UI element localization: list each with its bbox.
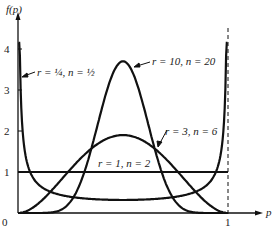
- label-r-quarter: r = ¼, n = ½: [37, 66, 95, 78]
- y-tick-1: 1: [4, 166, 10, 178]
- label-r-10: r = 10, n = 20: [152, 55, 216, 67]
- y-tick-2: 2: [4, 125, 10, 137]
- origin-label: 0: [2, 216, 8, 228]
- label-r-1: r = 1, n = 2: [98, 157, 151, 169]
- beta-density-chart: f(p) p 0 1 1 2 3 4 r = ¼, n = ½ r = 10, …: [0, 0, 272, 228]
- y-axis-label: f(p): [6, 3, 22, 16]
- y-tick-3: 3: [4, 84, 10, 96]
- curve-r-3: [18, 135, 228, 213]
- y-tick-4: 4: [4, 43, 10, 55]
- x-axis-arrow-icon: [255, 211, 263, 216]
- x-axis-label: p: [265, 206, 272, 218]
- x-tick-1: 1: [225, 216, 231, 228]
- label-r-3: r = 3, n = 6: [165, 125, 218, 137]
